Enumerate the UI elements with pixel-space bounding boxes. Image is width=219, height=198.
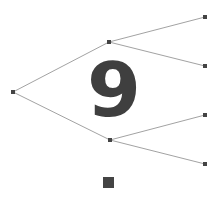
square-marker [103, 177, 114, 188]
node-leaf-2 [203, 64, 207, 68]
node-mid-top [107, 40, 111, 44]
center-digit-label: 9 [87, 56, 131, 124]
edge-midbottom-leaf4 [110, 140, 205, 164]
node-root [11, 90, 15, 94]
edge-midtop-leaf1 [109, 17, 205, 42]
node-leaf-3 [203, 113, 207, 117]
node-mid-bottom [108, 138, 112, 142]
node-leaf-1 [203, 15, 207, 19]
node-leaf-4 [203, 162, 207, 166]
